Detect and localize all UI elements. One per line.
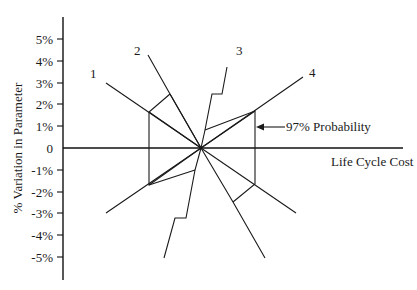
probability-arrow [256,124,285,131]
y-tick-label: 0 [47,141,54,156]
y-tick-label: -1% [31,163,53,178]
series-3-label: 3 [236,43,243,58]
x-axis-title: Life Cycle Cost [331,154,414,169]
y-tick-label: -3% [31,206,53,221]
y-tick-label: -4% [31,228,53,243]
y-tick-label: 5% [36,32,54,47]
series-2-line [148,55,265,258]
series-4-label: 4 [309,65,316,80]
arrowhead-icon [256,124,264,131]
y-tick-label: 1% [36,119,54,134]
series-1-label: 1 [90,66,97,81]
y-tick-label: -5% [31,250,53,265]
y-tick-label: -2% [31,185,53,200]
y-tick-labels: 5% 4% 3% 2% 1% 0 -1% -2% -3% -4% -5% [31,32,53,265]
spider-diagram: 5% 4% 3% 2% 1% 0 -1% -2% -3% -4% -5% % V… [0,0,417,290]
y-tick-label: 3% [36,76,54,91]
series-3-line [164,67,227,258]
series-2-label: 2 [134,43,141,58]
y-tick-label: 2% [36,97,54,112]
y-tick-label: 4% [36,54,54,69]
y-axis-title: % Variation in Parameter [10,82,25,213]
probability-annotation: 97% Probability [286,119,371,134]
y-ticks [57,39,63,257]
